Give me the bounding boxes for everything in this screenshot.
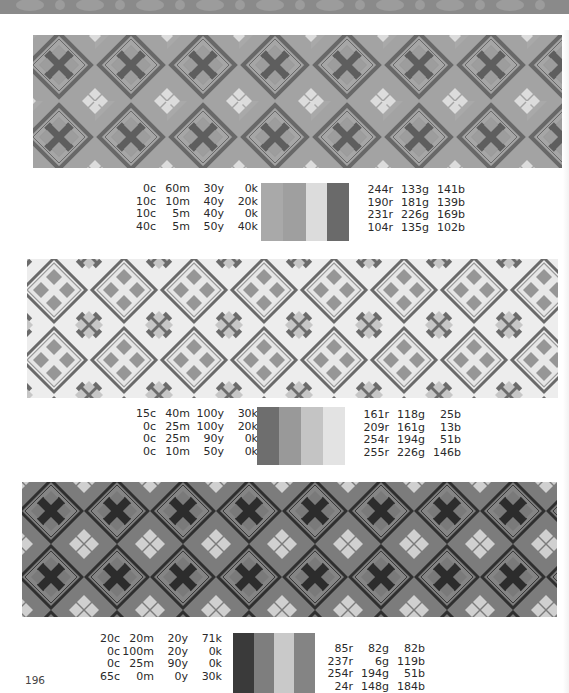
rgb-g: 226g [389,447,425,460]
rgb-b: 169b [429,209,465,222]
cmyk-m: 60m [156,183,190,196]
rgb-b: 82b [389,643,425,656]
cmyk-c: 20c [94,633,120,646]
cmyk-c: 15c [130,408,156,421]
swatch-2 [279,407,301,465]
cmyk-k: 0k [224,183,258,196]
cmyk-m: 25m [120,658,154,671]
cmyk-m: 20m [120,633,154,646]
rgb-b: 51b [425,434,461,447]
rgb-r: 231r [363,209,393,222]
rgb-r: 254r [359,434,389,447]
swatch-2 [254,633,274,693]
cmyk-y: 20y [154,633,188,646]
pattern-1-rgb-values: 244r133g141b 190r181g139b 231r226g169b 1… [363,184,465,234]
rgb-b: 51b [389,668,425,681]
cmyk-m: 10m [156,446,190,459]
pattern-3-rgb-values: 85r82g82b 237r6g119b 254r194g51b 24r148g… [323,643,425,693]
rgb-g: 133g [393,184,429,197]
cmyk-c: 0c [130,446,156,459]
swatch-3 [301,407,323,465]
cmyk-c: 0c [94,658,120,671]
rgb-b: 25b [425,409,461,422]
cmyk-m: 5m [156,221,190,234]
cmyk-y: 40y [190,208,224,221]
cmyk-c: 65c [94,671,120,684]
rgb-b: 102b [429,222,465,235]
rgb-g: 194g [389,434,425,447]
pattern-2-cmyk-values: 15c40m100y30k 0c25m100y20k 0c25m90y0k 0c… [130,408,258,458]
rgb-r: 254r [323,668,353,681]
decorative-header-strip [0,0,569,14]
rgb-r: 104r [363,222,393,235]
cmyk-k: 0k [224,446,258,459]
cmyk-m: 25m [156,433,190,446]
page-number: 196 [25,674,45,686]
cmyk-c: 0c [130,433,156,446]
swatch-3 [306,183,327,241]
pattern-3-cmyk-values: 20c20m20y71k 0c100m20y0k 0c25m90y0k 65c0… [90,633,222,683]
rgb-g: 194g [353,668,389,681]
rgb-g: 82g [353,643,389,656]
cmyk-k: 0k [188,658,222,671]
swatch-1 [261,183,283,241]
cmyk-k: 71k [188,633,222,646]
cmyk-c: 0c [130,183,156,196]
swatch-4 [294,633,315,693]
rgb-g: 135g [393,222,429,235]
cmyk-k: 40k [224,221,258,234]
rgb-b: 184b [389,681,425,693]
pattern-2-swatch-image [27,259,558,398]
cmyk-m: 0m [120,671,154,684]
cmyk-m: 40m [156,408,190,421]
rgb-b: 146b [425,447,461,460]
cmyk-c: 40c [130,221,156,234]
cmyk-k: 0k [224,208,258,221]
cmyk-y: 90y [190,433,224,446]
rgb-b: 141b [429,184,465,197]
pattern-2-color-swatches [257,407,345,465]
page-edge-shadow [563,30,569,693]
rgb-g: 118g [389,409,425,422]
cmyk-y: 50y [190,221,224,234]
cmyk-y: 0y [154,671,188,684]
rgb-r: 24r [323,681,353,693]
pattern-3-color-swatches [233,633,315,693]
cmyk-y: 90y [154,658,188,671]
pattern-1-swatch-image [33,35,562,168]
pattern-1-cmyk-values: 0c60m30y0k 10c10m40y20k 10c5m40y0k 40c5m… [130,183,258,233]
cmyk-k: 30k [188,671,222,684]
swatch-3 [274,633,294,693]
swatch-4 [327,183,349,241]
swatch-1 [257,407,279,465]
pattern-1-color-swatches [261,183,349,241]
cmyk-c: 10c [130,208,156,221]
swatch-2 [283,183,306,241]
cmyk-k: 0k [224,433,258,446]
rgb-r: 244r [363,184,393,197]
pattern-3-fill [22,482,557,617]
swatch-1 [233,633,254,693]
cmyk-m: 5m [156,208,190,221]
rgb-r: 85r [323,643,353,656]
cmyk-y: 100y [190,408,224,421]
cmyk-y: 30y [190,183,224,196]
rgb-g: 148g [353,681,389,693]
swatch-4 [323,407,345,465]
rgb-g: 226g [393,209,429,222]
pattern-2-rgb-values: 161r118g25b 209r161g13b 254r194g51b 255r… [359,409,461,459]
cmyk-k: 30k [224,408,258,421]
cmyk-y: 50y [190,446,224,459]
rgb-r: 255r [359,447,389,460]
rgb-r: 161r [359,409,389,422]
